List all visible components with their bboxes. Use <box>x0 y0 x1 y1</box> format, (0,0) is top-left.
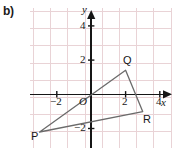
point-label-p: P <box>31 130 38 142</box>
x-tick-label-4: 4 <box>156 95 162 107</box>
plot-area: y x O 4 2 −2 −2 2 4 P Q R <box>30 8 172 148</box>
coordinate-grid-figure: b) <box>0 0 177 148</box>
y-tick-label-4: 4 <box>80 19 86 31</box>
point-label-r: R <box>143 113 151 125</box>
y-tick-label-neg2: −2 <box>74 121 86 133</box>
graph-svg <box>30 8 172 148</box>
point-label-q: Q <box>123 54 132 66</box>
origin-label: O <box>79 95 87 107</box>
y-tick-label-2: 2 <box>80 53 86 65</box>
part-label: b) <box>3 4 14 18</box>
y-axis <box>87 10 95 148</box>
x-tick-label-neg2: −2 <box>50 95 62 107</box>
y-axis-label: y <box>82 3 87 15</box>
x-tick-label-2: 2 <box>122 95 128 107</box>
